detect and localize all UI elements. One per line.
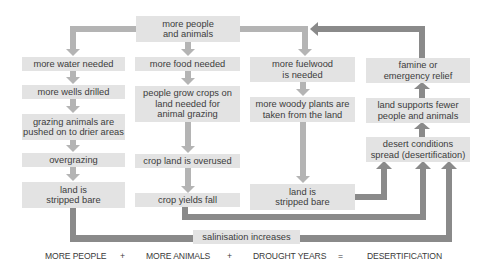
box-overgrazing: overgrazing xyxy=(22,153,125,167)
box-crop-land-overused: crop land is overused xyxy=(135,154,240,168)
box-more-fuelwood-needed: more fuelwood is needed xyxy=(250,57,355,82)
box-salinisation-increases: salinisation increases xyxy=(193,230,300,244)
box-more-water-needed: more water needed xyxy=(22,57,125,71)
box-more-people-and-animals: more people and animals xyxy=(136,16,240,42)
box-land-stripped-bare-2: land is stripped bare xyxy=(250,184,355,210)
box-more-food-needed: more food needed xyxy=(135,57,240,71)
box-grazing-animals-pushed: grazing animals are pushed on to drier a… xyxy=(22,114,125,140)
box-woody-plants-taken: more woody plants are taken from the lan… xyxy=(250,97,355,122)
box-land-stripped-bare-1: land is stripped bare xyxy=(22,182,125,208)
box-famine-or-relief: famine or emergency relief xyxy=(366,58,470,83)
box-people-grow-crops: people grow crops on land needed for ani… xyxy=(135,86,240,122)
box-land-supports-fewer: land supports fewer people and animals xyxy=(366,98,470,123)
box-crop-yields-fall: crop yields fall xyxy=(135,193,240,207)
box-desert-conditions-spread: desert conditions spread (desertificatio… xyxy=(366,137,470,162)
box-more-wells-drilled: more wells drilled xyxy=(22,85,125,99)
